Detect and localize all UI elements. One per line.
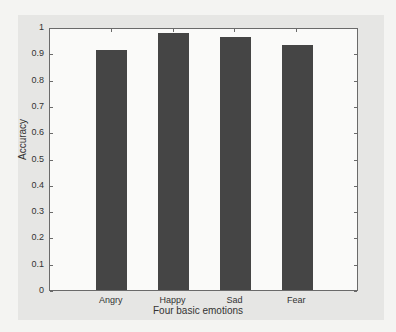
y-tick-label: 0.5 <box>16 154 44 164</box>
y-tick-mark-right <box>354 81 357 82</box>
y-tick-label: 0.8 <box>16 75 44 85</box>
y-tick-mark-right <box>354 238 357 239</box>
y-tick-label: 0.4 <box>16 180 44 190</box>
y-tick-mark-right <box>354 265 357 266</box>
y-tick-mark <box>50 212 53 213</box>
plot-area <box>49 28 358 291</box>
x-tick-mark-top <box>296 29 297 32</box>
y-tick-mark <box>50 160 53 161</box>
y-tick-mark <box>50 186 53 187</box>
y-tick-label: 0.6 <box>16 127 44 137</box>
y-tick-mark <box>50 81 53 82</box>
y-tick-mark-right <box>354 160 357 161</box>
y-tick-mark-right <box>354 28 357 29</box>
y-tick-mark-right <box>354 54 357 55</box>
bar-sad <box>220 37 251 290</box>
x-tick-label: Sad <box>204 295 264 305</box>
y-tick-mark <box>50 265 53 266</box>
y-tick-mark <box>50 133 53 134</box>
y-tick-mark <box>50 28 53 29</box>
bar-angry <box>96 50 127 290</box>
x-tick-mark-top <box>234 29 235 32</box>
x-axis-label: Four basic emotions <box>0 305 396 316</box>
y-tick-label: 1 <box>16 22 44 32</box>
y-tick-mark-right <box>354 133 357 134</box>
y-tick-mark-right <box>354 291 357 292</box>
y-tick-label: 0.1 <box>16 259 44 269</box>
y-tick-mark-right <box>354 107 357 108</box>
y-tick-mark <box>50 291 53 292</box>
y-tick-label: 0.2 <box>16 232 44 242</box>
y-tick-mark-right <box>354 186 357 187</box>
bar-fear <box>282 45 313 290</box>
y-tick-label: 0.9 <box>16 48 44 58</box>
x-tick-mark-top <box>111 29 112 32</box>
x-tick-mark-top <box>173 29 174 32</box>
bar-happy <box>158 33 189 290</box>
x-tick-label: Angry <box>81 295 141 305</box>
y-tick-mark <box>50 107 53 108</box>
y-tick-mark <box>50 54 53 55</box>
x-tick-label: Fear <box>266 295 326 305</box>
y-tick-label: 0.7 <box>16 101 44 111</box>
y-tick-label: 0.3 <box>16 206 44 216</box>
y-tick-label: 0 <box>16 285 44 295</box>
x-tick-label: Happy <box>143 295 203 305</box>
y-tick-mark-right <box>354 212 357 213</box>
y-tick-mark <box>50 238 53 239</box>
